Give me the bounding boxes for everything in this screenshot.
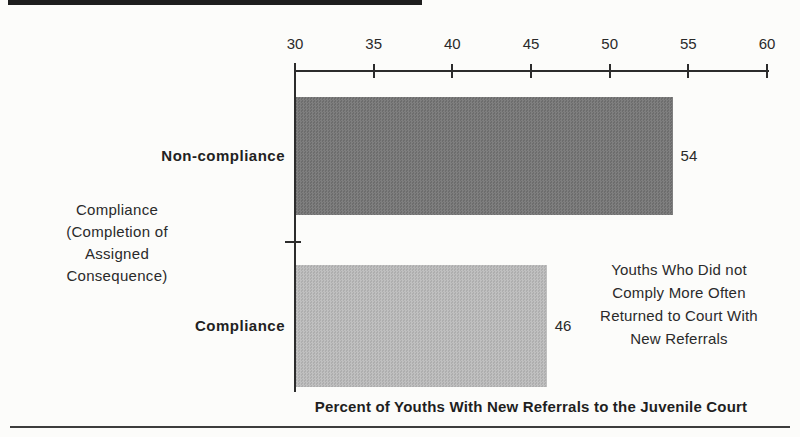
x-axis-tick [451,64,453,78]
annotation-line: New Referrals [578,327,780,350]
category-divider-tick [285,241,301,243]
bar-compliance [296,265,547,387]
bar-value-label: 54 [681,147,698,165]
bottom-page-rule [10,426,790,428]
scanned-bar-chart-figure: 3035404550556054Non-compliance46Complian… [0,0,800,437]
x-axis-tick-label: 35 [357,36,391,52]
x-axis-tick [687,64,689,78]
y-axis-label-line: (Completion of [22,221,212,243]
x-axis-tick-label: 45 [514,36,548,52]
bar-value-label: 46 [555,317,572,335]
category-label: Non-compliance [0,147,285,165]
y-axis-label: Compliance (Completion of Assigned Conse… [22,199,212,287]
bar-non-compliance [296,97,673,215]
y-axis-label-line: Consequence) [22,265,212,287]
x-axis-tick-label: 50 [593,36,627,52]
top-page-rule [8,0,422,5]
x-axis-tick-label: 55 [671,36,705,52]
chart-annotation: Youths Who Did not Comply More Often Ret… [578,258,780,350]
category-label: Compliance [0,317,285,335]
x-axis-tick [609,64,611,78]
y-axis-label-line: Assigned [22,243,212,265]
x-axis-tick [373,64,375,78]
y-axis-label-line: Compliance [22,199,212,221]
x-axis-tick [766,64,768,78]
x-axis-tick-label: 30 [278,36,312,52]
annotation-line: Returned to Court With [578,304,780,327]
annotation-line: Comply More Often [578,281,780,304]
x-axis-tick [530,64,532,78]
x-axis-tick [294,64,296,78]
annotation-line: Youths Who Did not [578,258,780,281]
x-axis-tick-label: 40 [435,36,469,52]
x-axis-title: Percent of Youths With New Referrals to … [291,399,771,415]
x-axis-tick-label: 60 [750,36,784,52]
